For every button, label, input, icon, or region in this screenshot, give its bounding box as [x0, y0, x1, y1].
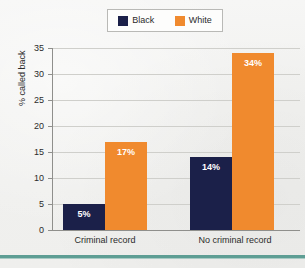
legend-item-white[interactable]: White: [175, 16, 212, 26]
y-tick-label-30: 30: [22, 70, 44, 79]
bar-white-no-criminal-record[interactable]: 34%: [232, 53, 274, 230]
bar-white-criminal-record[interactable]: 17%: [105, 142, 147, 230]
y-tick-label-0: 0: [22, 226, 44, 235]
legend-item-black[interactable]: Black: [118, 16, 154, 26]
bar-label-black-no-criminal-record: 14%: [190, 163, 232, 172]
y-tick-label-15: 15: [22, 148, 44, 157]
y-tickmark-10: [48, 178, 52, 179]
y-tick-label-25: 25: [22, 96, 44, 105]
y-axis-line: [52, 48, 53, 231]
y-tick-label-5: 5: [22, 200, 44, 209]
grouped-bar-chart: Black White % called back 35 30 25 2: [0, 0, 305, 268]
bar-black-no-criminal-record[interactable]: 14%: [190, 157, 232, 230]
legend-swatch-white: [175, 16, 185, 26]
x-axis-label-criminal-record: Criminal record: [63, 236, 147, 245]
bar-label-white-no-criminal-record: 34%: [232, 59, 274, 68]
y-tickmark-15: [48, 152, 52, 153]
y-tick-label-20: 20: [22, 122, 44, 131]
chart-legend: Black White: [107, 9, 223, 32]
y-tickmark-5: [48, 204, 52, 205]
y-tick-label-35: 35: [22, 44, 44, 53]
legend-swatch-black: [118, 16, 128, 26]
bar-label-black-criminal-record: 5%: [63, 210, 105, 219]
bar-black-criminal-record[interactable]: 5%: [63, 204, 105, 230]
x-axis-label-no-criminal-record: No criminal record: [180, 236, 290, 245]
plot-area: 35 30 25 20 15 10 5 0 5% 17% 14% 34%: [52, 48, 300, 231]
y-tickmark-0: [48, 230, 52, 231]
bottom-rule-soft: [0, 258, 305, 259]
gridline-35: [52, 48, 300, 49]
bar-label-white-criminal-record: 17%: [105, 148, 147, 157]
y-tickmark-30: [48, 74, 52, 75]
y-tickmark-25: [48, 100, 52, 101]
y-tickmark-20: [48, 126, 52, 127]
x-axis-line: [52, 230, 300, 231]
y-tick-label-10: 10: [22, 174, 44, 183]
legend-label-white: White: [189, 16, 212, 25]
y-tickmark-35: [48, 48, 52, 49]
legend-label-black: Black: [132, 16, 154, 25]
